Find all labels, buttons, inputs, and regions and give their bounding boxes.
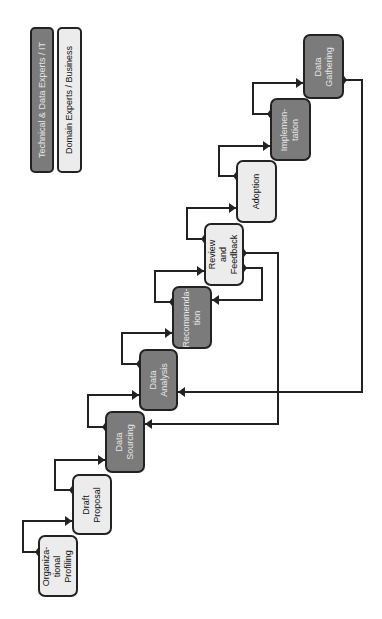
- arrowhead-icon: [212, 295, 219, 305]
- arrowhead-icon: [145, 419, 152, 429]
- node-label: Implemen- tation: [280, 108, 302, 151]
- node-label: Data Sourcing: [114, 424, 136, 460]
- node-label: Organiza- tional Profiling: [42, 546, 75, 586]
- node-label: Draft Proposal: [81, 487, 103, 523]
- legend-item-domain: Domain Experts / Business: [57, 27, 82, 173]
- arrowhead-icon: [229, 203, 236, 213]
- node-label: Data Analysis: [147, 363, 169, 397]
- node-gathering: Data Gathering: [303, 34, 344, 99]
- legend-label: Domain Experts / Business: [65, 46, 75, 154]
- node-label: Data Gathering: [313, 47, 335, 87]
- node-review: Review and Feedback: [204, 223, 244, 286]
- node-adoption: Adoption: [236, 160, 277, 223]
- legend-item-tech: Technical & Data Experts / IT: [30, 27, 54, 173]
- node-label: Recommenda- tion: [181, 288, 203, 347]
- arrowhead-icon: [98, 455, 105, 465]
- node-label: Adoption: [251, 174, 262, 210]
- arrowhead-icon: [263, 141, 270, 151]
- node-draft: Draft Proposal: [72, 474, 112, 535]
- node-label: Review and Feedback: [208, 235, 241, 275]
- arrowhead-icon: [132, 390, 139, 400]
- node-analysis: Data Analysis: [139, 349, 178, 411]
- legend-label: Technical & Data Experts / IT: [37, 42, 47, 158]
- node-recommendation: Recommenda- tion: [172, 286, 212, 349]
- node-org: Organiza- tional Profiling: [38, 535, 78, 597]
- process-diagram: Technical & Data Experts / ITDomain Expe…: [0, 0, 382, 619]
- node-implementation: Implemen- tation: [270, 98, 311, 161]
- arrowhead-icon: [178, 387, 185, 397]
- arrowhead-icon: [165, 328, 172, 338]
- arrowhead-icon: [296, 78, 303, 88]
- node-sourcing: Data Sourcing: [105, 411, 145, 473]
- arrowhead-icon: [65, 516, 72, 526]
- arrowhead-icon: [197, 266, 204, 276]
